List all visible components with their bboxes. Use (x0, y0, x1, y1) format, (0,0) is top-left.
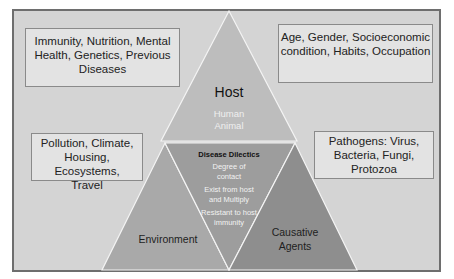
center-item-3-line-1: Resistant to host (189, 208, 269, 218)
center-item-2-line-2: and Multiply (189, 195, 269, 205)
center-item-1-line-2: contact (189, 172, 269, 182)
host-factors-line-3: Diseases (26, 62, 179, 76)
demographic-factors-box: Age, Gender, Socioeconomic condition, Ha… (278, 24, 433, 83)
pathogens-line-2: Bacteria, Fungi, (315, 148, 433, 162)
host-example-human: Human (199, 108, 259, 120)
disease-dilectics-title: Disease Dilectics (189, 150, 269, 159)
host-label: Host (199, 84, 259, 100)
pathogens-line-3: Protozoa (315, 162, 433, 176)
demographic-factors-line-1: Age, Gender, Socioeconomic (279, 30, 432, 44)
environment-factors-box: Pollution, Climate, Housing, Ecosystems,… (31, 133, 143, 181)
host-factors-box: Immunity, Nutrition, Mental Health, Gene… (25, 28, 180, 87)
host-factors-line-1: Immunity, Nutrition, Mental (26, 34, 179, 48)
environment-factors-line-2: Housing, Ecosystems, (32, 150, 142, 178)
host-factors-line-2: Health, Genetics, Previous (26, 48, 179, 62)
environment-factors-line-1: Pollution, Climate, (32, 136, 142, 150)
demographic-factors-line-2: condition, Habits, Occupation (279, 44, 432, 58)
host-example-animal: Animal (199, 120, 259, 132)
causative-agents-label-line-1: Causative (260, 225, 330, 239)
center-item-2-line-1: Exist from host (189, 185, 269, 195)
pathogens-line-1: Pathogens: Virus, (315, 134, 433, 148)
pathogens-box: Pathogens: Virus, Bacteria, Fungi, Proto… (314, 131, 434, 179)
center-item-3-line-2: immunity (189, 218, 269, 228)
center-item-1-line-1: Degree of (189, 162, 269, 172)
environment-factors-line-3: Travel (32, 178, 142, 192)
causative-agents-label-line-2: Agents (260, 239, 330, 253)
environment-label: Environment (128, 232, 208, 246)
